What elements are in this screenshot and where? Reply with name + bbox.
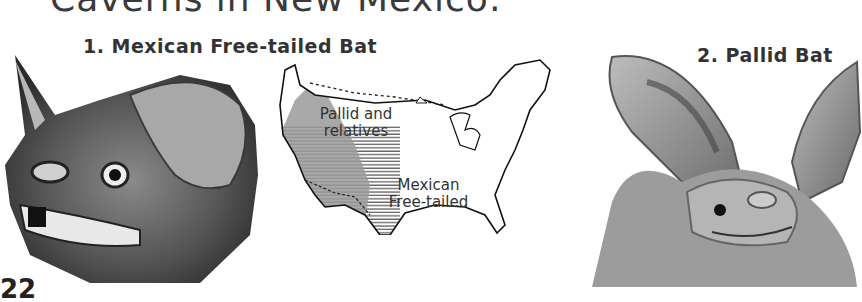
- map-label-mexican: Mexican Free-tailed: [386, 177, 471, 211]
- map-label-pallid: Pallid and relatives: [316, 106, 396, 140]
- page-heading: Caverns in New Mexico:: [50, 0, 502, 19]
- map-label-pallid-line2: relatives: [316, 123, 396, 140]
- map-label-pallid-line1: Pallid and: [316, 106, 396, 123]
- map-label-mexican-line1: Mexican: [386, 177, 471, 194]
- mexican-free-tailed-bat-illustration: [0, 55, 290, 287]
- figure-caption-mexican-free-tailed-bat: 1. Mexican Free-tailed Bat: [83, 35, 377, 57]
- page-number: 22: [0, 276, 36, 302]
- pallid-bat-illustration: [592, 52, 862, 287]
- map-label-mexican-line2: Free-tailed: [386, 194, 471, 211]
